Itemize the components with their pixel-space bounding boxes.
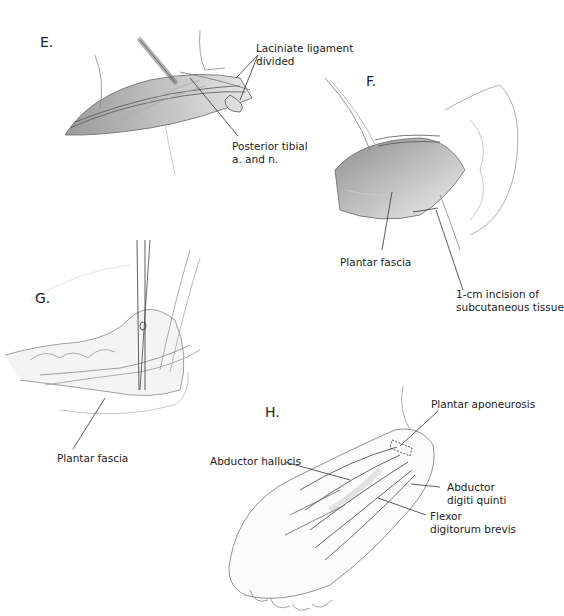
label-posterior-tibial: Posterior tibial a. and n. xyxy=(232,140,308,166)
panel-e-letter: E. xyxy=(40,34,53,50)
label-plantar-aponeurosis: Plantar aponeurosis xyxy=(431,398,535,411)
panel-f-letter: F. xyxy=(366,73,376,89)
label-plantar-fascia-f: Plantar fascia xyxy=(340,256,411,269)
label-abductor-digiti-quinti: Abductor digiti quinti xyxy=(447,481,506,507)
label-incision-subcutaneous: 1-cm incision of subcutaneous tissue xyxy=(456,288,564,314)
panel-g-letter: G. xyxy=(35,290,50,306)
label-abductor-hallucis: Abductor hallucis xyxy=(210,455,301,468)
label-flexor-digitorum-brevis: Flexor digitorum brevis xyxy=(430,510,516,536)
label-laciniate-ligament: Laciniate ligament divided xyxy=(256,42,353,68)
label-plantar-fascia-g: Plantar fascia xyxy=(57,452,128,465)
panel-h-drawing xyxy=(229,386,440,610)
panel-e-drawing xyxy=(65,30,258,175)
panel-g-drawing xyxy=(5,240,200,449)
panel-h-letter: H. xyxy=(265,404,280,420)
